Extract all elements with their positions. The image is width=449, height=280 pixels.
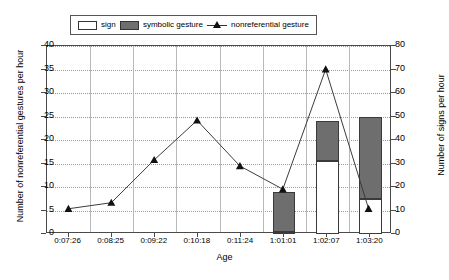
legend-label-sign: sign bbox=[101, 21, 116, 29]
legend-item-sign: sign bbox=[78, 21, 116, 30]
data-point-marker bbox=[322, 65, 330, 72]
legend-label-symbolic-gesture: symbolic gesture bbox=[143, 21, 203, 29]
y-axis-right-tick-mark bbox=[391, 139, 396, 140]
y-axis-right-tick-label: 10 bbox=[395, 205, 421, 214]
y-axis-left-tick-mark bbox=[41, 163, 46, 164]
line-series-layer bbox=[47, 46, 390, 232]
x-axis-tick-mark bbox=[283, 233, 284, 237]
y-axis-right-tick-mark bbox=[391, 45, 396, 46]
data-point-marker bbox=[193, 116, 201, 123]
plot-area bbox=[46, 45, 391, 233]
x-axis-title: Age bbox=[0, 252, 449, 262]
y-axis-right-tick-label: 0 bbox=[395, 228, 421, 237]
legend-label-nonreferential-gesture: nonreferential gesture bbox=[231, 21, 309, 29]
filled-bar-swatch-icon bbox=[120, 21, 139, 30]
legend-item-nonreferential-gesture: nonreferential gesture bbox=[207, 21, 309, 29]
x-axis-tick-label: 1:03:20 bbox=[343, 236, 395, 245]
y-axis-right-tick-label: 50 bbox=[395, 111, 421, 120]
y-axis-right-title: Number of signs per hour bbox=[435, 45, 447, 205]
y-axis-right-tick-label: 60 bbox=[395, 87, 421, 96]
y-axis-right-tick-mark bbox=[391, 116, 396, 117]
y-axis-left-tick-mark bbox=[41, 233, 46, 234]
y-axis-right-tick-label: 80 bbox=[395, 40, 421, 49]
x-axis-tick-mark bbox=[240, 233, 241, 237]
y-axis-right-tick-mark bbox=[391, 69, 396, 70]
y-axis-left-tick-mark bbox=[41, 139, 46, 140]
y-axis-right-tick-mark bbox=[391, 92, 396, 93]
chart-legend: sign symbolic gesture nonreferential ges… bbox=[70, 15, 317, 35]
data-point-marker bbox=[279, 185, 287, 192]
y-axis-right-tick-mark bbox=[391, 163, 396, 164]
legend-item-symbolic-gesture: symbolic gesture bbox=[120, 21, 203, 30]
line-triangle-swatch-icon bbox=[207, 21, 227, 29]
open-bar-swatch-icon bbox=[78, 21, 97, 30]
y-axis-right-tick-label: 30 bbox=[395, 158, 421, 167]
y-axis-left-tick-mark bbox=[41, 116, 46, 117]
y-axis-right-tick-mark bbox=[391, 186, 396, 187]
y-axis-right-tick-label: 20 bbox=[395, 181, 421, 190]
y-axis-left-tick-mark bbox=[41, 92, 46, 93]
y-axis-left-tick-mark bbox=[41, 186, 46, 187]
y-axis-left-tick-mark bbox=[41, 69, 46, 70]
x-axis-tick-mark bbox=[369, 233, 370, 237]
line-path-nonreferential-gesture bbox=[68, 69, 368, 209]
y-axis-left-title: Number of nonreferential gestures per ho… bbox=[14, 45, 26, 227]
x-axis-tick-mark bbox=[111, 233, 112, 237]
y-axis-right-tick-label: 70 bbox=[395, 64, 421, 73]
x-axis-tick-mark bbox=[154, 233, 155, 237]
y-axis-right-tick-mark bbox=[391, 233, 396, 234]
x-axis-tick-mark bbox=[326, 233, 327, 237]
y-axis-right-tick-label: 40 bbox=[395, 134, 421, 143]
x-axis-tick-mark bbox=[197, 233, 198, 237]
y-axis-right-tick-mark bbox=[391, 210, 396, 211]
x-axis-tick-mark bbox=[68, 233, 69, 237]
y-axis-left-tick-mark bbox=[41, 45, 46, 46]
chart-figure: sign symbolic gesture nonreferential ges… bbox=[0, 0, 449, 280]
data-point-marker bbox=[365, 205, 373, 212]
y-axis-left-tick-mark bbox=[41, 210, 46, 211]
